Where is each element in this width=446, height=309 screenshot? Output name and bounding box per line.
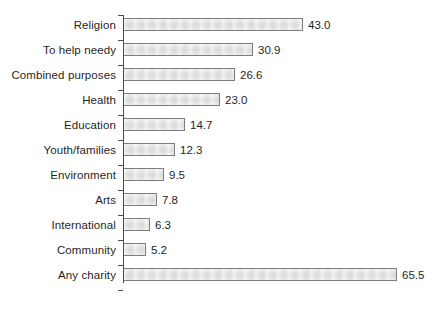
category-label: Environment bbox=[50, 165, 116, 185]
bar bbox=[124, 18, 303, 31]
bar-value-label: 12.3 bbox=[180, 140, 202, 160]
bar bbox=[124, 68, 235, 81]
bar bbox=[124, 218, 150, 231]
bar-value-label: 6.3 bbox=[155, 215, 171, 235]
plot-area: Religion43.0To help needy30.9Combined pu… bbox=[0, 15, 446, 285]
axis-tick bbox=[118, 65, 123, 66]
category-label: Youth/families bbox=[43, 140, 116, 160]
bar-row: International6.3 bbox=[0, 215, 446, 240]
axis-tick bbox=[118, 190, 123, 191]
category-label: Education bbox=[64, 115, 116, 135]
bar-value-label: 23.0 bbox=[225, 90, 247, 110]
bar-value-label: 43.0 bbox=[308, 15, 330, 35]
bar-value-label: 26.6 bbox=[240, 65, 262, 85]
bar-row: Youth/families12.3 bbox=[0, 140, 446, 165]
bar-row: Religion43.0 bbox=[0, 15, 446, 40]
axis-tick bbox=[118, 140, 123, 141]
bar-row: Combined purposes26.6 bbox=[0, 65, 446, 90]
bar bbox=[124, 118, 185, 131]
axis-tick bbox=[118, 40, 123, 41]
bar-value-label: 9.5 bbox=[169, 165, 185, 185]
bar-value-label: 65.5 bbox=[402, 265, 424, 285]
axis-tick bbox=[118, 15, 123, 16]
category-label: Community bbox=[57, 240, 116, 260]
bar-value-label: 14.7 bbox=[190, 115, 212, 135]
bar bbox=[124, 268, 397, 281]
axis-tick bbox=[118, 240, 123, 241]
category-label: Combined purposes bbox=[11, 65, 116, 85]
bar-row: To help needy30.9 bbox=[0, 40, 446, 65]
bar-chart: Religion43.0To help needy30.9Combined pu… bbox=[0, 0, 446, 309]
category-label: Health bbox=[82, 90, 116, 110]
category-label: Religion bbox=[74, 15, 116, 35]
bar-row: Any charity65.5 bbox=[0, 265, 446, 290]
bar-value-label: 7.8 bbox=[162, 190, 178, 210]
axis-tick bbox=[118, 165, 123, 166]
category-label: International bbox=[51, 215, 116, 235]
bar-row: Education14.7 bbox=[0, 115, 446, 140]
bar-row: Health23.0 bbox=[0, 90, 446, 115]
bar-value-label: 5.2 bbox=[151, 240, 167, 260]
bar bbox=[124, 243, 146, 256]
category-label: Arts bbox=[95, 190, 116, 210]
bar bbox=[124, 43, 253, 56]
bar bbox=[124, 193, 157, 206]
bar bbox=[124, 93, 220, 106]
bar-value-label: 30.9 bbox=[258, 40, 280, 60]
axis-tick bbox=[118, 90, 123, 91]
category-label: Any charity bbox=[58, 265, 116, 285]
bar-row: Arts7.8 bbox=[0, 190, 446, 215]
category-label: To help needy bbox=[43, 40, 116, 60]
axis-tick bbox=[118, 265, 123, 266]
axis-tick bbox=[118, 215, 123, 216]
bar bbox=[124, 168, 164, 181]
axis-tick bbox=[118, 290, 123, 291]
axis-tick bbox=[118, 115, 123, 116]
bar-row: Community5.2 bbox=[0, 240, 446, 265]
bar bbox=[124, 143, 175, 156]
bar-row: Environment9.5 bbox=[0, 165, 446, 190]
